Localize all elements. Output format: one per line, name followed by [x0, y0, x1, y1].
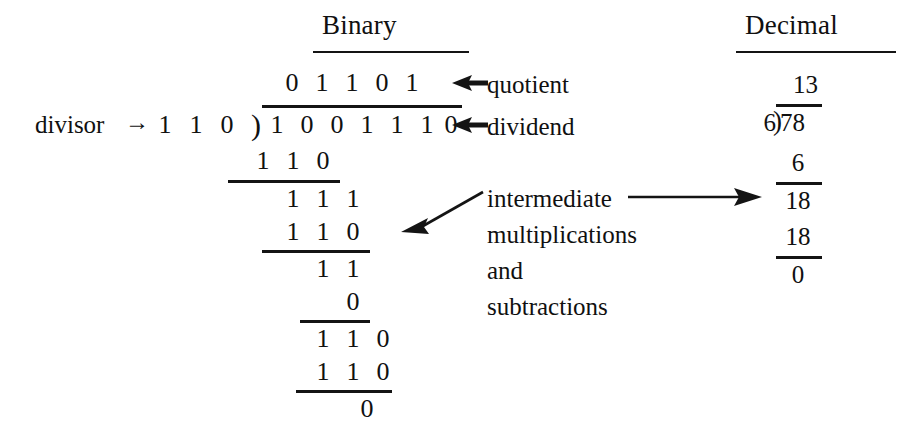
binary-divisor-digit-0: 1 — [154, 112, 176, 138]
binary-dividend-vinculum — [262, 105, 462, 108]
binary-step-2-subtrahend-digit-2: 0 — [342, 219, 364, 245]
binary-dividend-digit-1: 0 — [296, 112, 318, 138]
intermediate-callout-line-4: subtractions — [487, 294, 608, 319]
intermediate-pointer-arrow-icon — [395, 190, 485, 260]
binary-step-1-subtrahend-digit-1: 1 — [282, 148, 304, 174]
binary-step-2-subtrahend-digit-0: 1 — [282, 219, 304, 245]
binary-final-remainder-digit-0: 0 — [356, 396, 378, 422]
quotient-callout-label: quotient — [487, 72, 569, 97]
binary-quotient-digit-4: 1 — [401, 70, 423, 96]
divisor-arrow-icon: → — [125, 110, 149, 134]
binary-step-3-subtrahend-digit-0: 0 — [342, 289, 364, 315]
binary-step-3-remainder-digit-0: 1 — [312, 326, 334, 352]
quotient-pointer-arrow-icon — [452, 72, 492, 96]
decimal-column-heading: Decimal — [745, 12, 838, 39]
binary-step-3-remainder-digit-1: 1 — [342, 326, 364, 352]
binary-step-2-rule — [262, 250, 370, 253]
binary-quotient-digit-0: 0 — [281, 70, 303, 96]
decimal-pointer-arrow-icon — [626, 186, 776, 208]
binary-division-bracket: ) — [245, 110, 267, 140]
binary-dividend-digit-2: 0 — [326, 112, 348, 138]
binary-dividend-digit-5: 1 — [416, 112, 438, 138]
binary-dividend-digit-4: 1 — [386, 112, 408, 138]
binary-step-3-remainder-digit-2: 0 — [372, 326, 394, 352]
binary-quotient-digit-3: 0 — [371, 70, 393, 96]
binary-step-1-subtrahend-digit-0: 1 — [252, 148, 274, 174]
binary-divisor-digit-1: 1 — [185, 112, 207, 138]
divisor-label: divisor — [35, 112, 104, 137]
binary-column-heading: Binary — [322, 12, 397, 39]
dividend-pointer-arrow-icon — [452, 114, 492, 138]
decimal-dividend: 78 — [780, 110, 820, 135]
decimal-dividend-vinculum — [776, 104, 822, 107]
decimal-row-0: 6 — [778, 150, 818, 175]
decimal-heading-rule — [736, 51, 896, 53]
binary-heading-rule — [313, 51, 469, 53]
intermediate-callout-line-2: multiplications — [487, 222, 637, 247]
intermediate-callout-line-1: intermediate — [487, 186, 612, 211]
decimal-row-0-rule — [776, 182, 822, 185]
binary-quotient-digit-2: 1 — [341, 70, 363, 96]
decimal-row-2: 18 — [778, 224, 818, 249]
binary-step-1-remainder-digit-1: 1 — [312, 186, 334, 212]
decimal-quotient: 13 — [778, 72, 818, 97]
binary-step-1-remainder-digit-0: 1 — [282, 186, 304, 212]
binary-step-2-subtrahend-digit-1: 1 — [312, 219, 334, 245]
binary-divisor-digit-2: 0 — [216, 112, 238, 138]
binary-step-4-subtrahend-digit-2: 0 — [372, 359, 394, 385]
figure-canvas: Binary Decimal divisor → 1 1 0 ) 0 1 1 0… — [0, 0, 909, 426]
binary-dividend-digit-0: 1 — [266, 112, 288, 138]
dividend-callout-label: dividend — [487, 114, 575, 139]
binary-step-4-subtrahend-digit-0: 1 — [312, 359, 334, 385]
binary-step-4-subtrahend-digit-1: 1 — [342, 359, 364, 385]
decimal-row-1: 18 — [778, 188, 818, 213]
binary-step-2-remainder-digit-1: 1 — [342, 256, 364, 282]
binary-dividend-digit-3: 1 — [356, 112, 378, 138]
decimal-row-2-rule — [776, 256, 822, 259]
binary-step-1-rule — [228, 180, 340, 183]
binary-quotient-digit-1: 1 — [311, 70, 333, 96]
binary-step-4-rule — [296, 390, 392, 393]
binary-step-2-remainder-digit-0: 1 — [312, 256, 334, 282]
binary-step-1-remainder-digit-2: 1 — [342, 186, 364, 212]
intermediate-callout-line-3: and — [487, 258, 523, 283]
binary-step-3-rule — [300, 320, 370, 323]
decimal-row-3: 0 — [778, 262, 818, 287]
binary-step-1-subtrahend-digit-2: 0 — [312, 148, 334, 174]
